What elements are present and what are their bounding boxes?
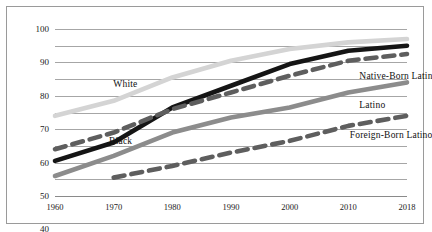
- gridline-0: 0: [55, 196, 407, 197]
- y-axis-tick-label: 40: [40, 225, 49, 232]
- series-line-foreign-born-latino: [114, 116, 407, 178]
- y-axis-tick-label: 80: [40, 91, 49, 100]
- x-axis-tick-label: 1970: [105, 203, 122, 212]
- x-axis-tick-label: 1980: [164, 203, 181, 212]
- y-axis-tick-label: 50: [40, 192, 49, 201]
- y-axis-tick-label: 60: [40, 158, 49, 167]
- series-annotation-foreign-born-latino: Foreign-Born Latino: [350, 131, 432, 141]
- x-axis-tick-label: 1960: [47, 203, 64, 212]
- series-annotation-black: Black: [109, 137, 132, 147]
- x-axis-tick-label: 2018: [399, 203, 416, 212]
- series-annotation-white: White: [113, 80, 137, 90]
- series-annotation-latino: Latino: [359, 101, 385, 111]
- x-axis-tick-label: 1990: [223, 203, 240, 212]
- series-layer: [55, 29, 407, 196]
- y-axis-tick-label: 100: [36, 25, 50, 34]
- y-axis-tick-label: 70: [40, 125, 49, 134]
- series-annotation-native-born-latino: Native-Born Latino: [359, 72, 432, 82]
- x-axis-tick-label: 2000: [281, 203, 298, 212]
- x-axis-tick-label: 2010: [340, 203, 357, 212]
- chart-frame: 0102030405060708090100 19601970198019902…: [6, 6, 424, 224]
- y-axis-tick-label: 90: [40, 58, 49, 67]
- plot-area: 0102030405060708090100 19601970198019902…: [55, 29, 407, 196]
